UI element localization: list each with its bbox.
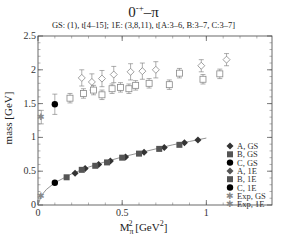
data-point: ✱ bbox=[37, 112, 45, 122]
y-axis-label: mass [GeV] bbox=[2, 92, 14, 145]
data-point bbox=[80, 90, 86, 96]
data-point bbox=[136, 151, 142, 157]
legend-marker bbox=[227, 143, 234, 150]
legend-marker bbox=[227, 176, 233, 182]
legend-marker bbox=[227, 184, 233, 190]
x-tick-label: 1 bbox=[204, 207, 209, 218]
data-point bbox=[52, 101, 58, 107]
y-tick-label: 1.5 bbox=[24, 98, 37, 109]
y-tick-label: 2.5 bbox=[24, 30, 37, 41]
data-point bbox=[88, 78, 95, 85]
data-point: ✱ bbox=[37, 191, 45, 201]
data-point bbox=[166, 82, 172, 88]
data-point bbox=[91, 87, 97, 93]
data-point bbox=[109, 86, 115, 92]
data-point bbox=[176, 142, 182, 148]
data-point bbox=[67, 95, 73, 101]
data-point bbox=[119, 155, 125, 161]
fit-curve bbox=[38, 138, 206, 205]
y-tick-label: 1 bbox=[31, 131, 36, 142]
data-point bbox=[98, 75, 105, 82]
data-point bbox=[79, 167, 85, 173]
data-point bbox=[92, 163, 98, 169]
data-point bbox=[152, 66, 159, 73]
legend-marker bbox=[227, 159, 233, 165]
data-point bbox=[78, 74, 85, 81]
y-tick-label: 0.5 bbox=[24, 165, 37, 176]
legend-marker: ✱ bbox=[226, 199, 234, 209]
data-point bbox=[110, 71, 117, 78]
data-point bbox=[200, 76, 206, 82]
y-tick-label: 2 bbox=[31, 64, 36, 75]
x-tick-label: 0 bbox=[36, 207, 41, 218]
legend-marker bbox=[227, 167, 234, 174]
data-point bbox=[99, 92, 105, 98]
data-point bbox=[52, 179, 58, 185]
data-point bbox=[133, 82, 139, 88]
x-axis-label: Mπ2 [GeV2] bbox=[0, 219, 287, 236]
x-tick-label: 0.5 bbox=[116, 207, 129, 218]
legend-marker bbox=[227, 151, 233, 157]
data-point bbox=[176, 70, 182, 76]
data-point bbox=[146, 80, 152, 86]
data-point bbox=[139, 68, 146, 75]
data-point bbox=[104, 159, 110, 165]
data-point bbox=[117, 84, 123, 90]
data-point bbox=[72, 170, 79, 177]
data-point bbox=[156, 146, 162, 152]
data-point bbox=[223, 56, 230, 63]
plot-area: 00.511.522.500.51✱✱A, GSB, GSC, GSA, 1EB… bbox=[0, 0, 287, 243]
legend-label: Exp, 1E bbox=[237, 199, 264, 209]
data-point bbox=[126, 86, 132, 92]
data-point bbox=[217, 71, 223, 77]
data-point bbox=[64, 174, 70, 180]
data-point bbox=[194, 137, 201, 144]
data-point bbox=[198, 62, 205, 69]
data-point bbox=[127, 68, 134, 75]
